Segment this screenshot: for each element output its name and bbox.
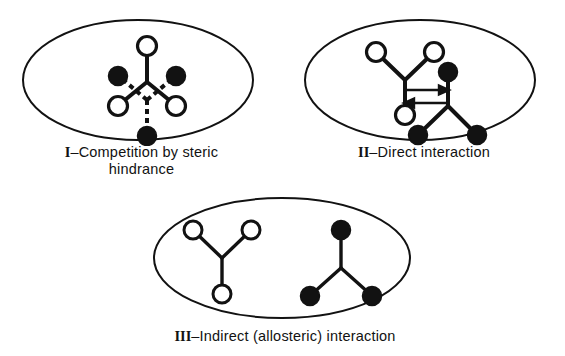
panel-1-ellipse-boundary bbox=[23, 20, 253, 140]
lower-right-filled-node bbox=[363, 287, 382, 306]
panel-1-diagram bbox=[18, 18, 263, 146]
lower-open-node bbox=[396, 106, 415, 125]
panel-3-separator: – bbox=[191, 328, 199, 344]
upper-left-open-node bbox=[184, 221, 202, 239]
upper-left-open-node bbox=[367, 43, 386, 62]
upper-left-filled-node bbox=[109, 67, 128, 86]
panel-2-caption-text: Direct interaction bbox=[378, 144, 490, 160]
figure-root: I–Competition by steric hindrance bbox=[0, 0, 565, 356]
panel-1-caption: I–Competition by steric hindrance bbox=[0, 144, 283, 178]
panel-2-diagram bbox=[300, 18, 545, 146]
panel-2-separator: – bbox=[369, 144, 377, 160]
lower-right-filled-node bbox=[468, 126, 487, 145]
panel-2-ellipse-boundary bbox=[305, 20, 535, 140]
panel-3-caption-text: Indirect (allosteric) interaction bbox=[200, 328, 396, 344]
panel-1-separator: – bbox=[70, 144, 78, 160]
panel-competition-by-steric-hindrance bbox=[18, 18, 263, 146]
panel-2-caption: II–Direct interaction bbox=[283, 144, 565, 161]
upper-right-open-node bbox=[242, 221, 260, 239]
lower-left-filled-node bbox=[409, 126, 428, 145]
panel-1-caption-text: Competition by steric hindrance bbox=[79, 144, 219, 177]
lower-left-filled-node bbox=[301, 287, 320, 306]
top-filled-node bbox=[332, 221, 351, 240]
panel-3-diagram bbox=[150, 196, 418, 324]
panel-indirect-allosteric-interaction bbox=[150, 196, 418, 324]
upper-right-open-node bbox=[425, 43, 444, 62]
top-open-node bbox=[138, 37, 157, 56]
upper-right-filled-node bbox=[167, 67, 186, 86]
bottom-filled-node bbox=[138, 127, 157, 146]
panel-direct-interaction bbox=[300, 18, 545, 146]
panel-3-caption: III–Indirect (allosteric) interaction bbox=[130, 328, 440, 345]
panel-3-numeral: III bbox=[174, 328, 191, 344]
top-filled-node bbox=[439, 63, 458, 82]
lower-right-open-node bbox=[167, 97, 186, 116]
lower-left-open-node bbox=[109, 97, 128, 116]
lower-open-node bbox=[213, 285, 231, 303]
panel-2-numeral: II bbox=[358, 144, 369, 160]
